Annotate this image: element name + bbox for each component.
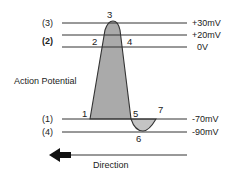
- arrow-left-icon: [49, 148, 71, 162]
- level-label-1: (1): [42, 114, 53, 124]
- point-label-5: 5: [133, 108, 138, 119]
- point-label-3: 3: [107, 9, 112, 20]
- voltage-label-minus70: -70mV: [192, 114, 219, 124]
- point-label-2: 2: [92, 36, 97, 47]
- voltage-label-minus90: -90mV: [192, 127, 219, 137]
- action-potential-diagram: (3) (2) (1) (4) +30mV +20mV 0V -70mV -90…: [0, 0, 233, 182]
- point-label-1: 1: [82, 108, 87, 119]
- level-label-4: (4): [42, 127, 53, 137]
- level-label-2: (2): [42, 36, 53, 46]
- voltage-label-plus30: +30mV: [192, 18, 221, 28]
- voltage-label-plus20: +20mV: [192, 30, 221, 40]
- point-label-6: 6: [136, 133, 141, 144]
- hyperpolarization-dip: [131, 119, 156, 131]
- point-label-4: 4: [127, 36, 132, 47]
- diagram-title: Action Potential: [14, 76, 77, 86]
- level-label-3: (3): [42, 18, 53, 28]
- point-label-7: 7: [158, 104, 163, 115]
- voltage-label-zero: 0V: [197, 42, 208, 52]
- direction-label: Direction: [93, 160, 129, 170]
